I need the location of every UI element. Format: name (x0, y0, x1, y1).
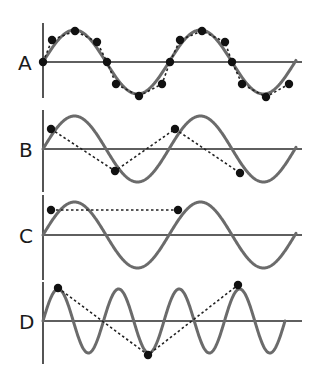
sample-point (262, 93, 270, 101)
sample-point (158, 80, 166, 88)
panel-label-b: B (19, 138, 33, 162)
sample-point (228, 58, 236, 66)
sample-point (111, 167, 119, 175)
sample-point (103, 58, 111, 66)
panel-a: A (18, 23, 302, 101)
panel-label-d: D (19, 310, 34, 334)
sample-point (221, 38, 229, 46)
sample-point (48, 36, 56, 44)
sample-point (54, 284, 62, 292)
sample-point (234, 281, 242, 289)
panel-d: D (19, 281, 302, 364)
sample-point (238, 80, 246, 88)
panel-c: C (19, 195, 302, 280)
sample-point (39, 58, 47, 66)
sample-point (176, 36, 184, 44)
reconstruction-line-b (51, 129, 240, 173)
sample-point (174, 206, 182, 214)
sample-point (144, 351, 152, 359)
sampling-diagram: A B C D (0, 0, 321, 391)
reconstruction-line-d (58, 285, 238, 355)
sample-point (285, 80, 293, 88)
sample-point (47, 206, 55, 214)
sample-point (135, 92, 143, 100)
sample-point (47, 125, 55, 133)
sample-point (166, 58, 174, 66)
panel-b: B (19, 110, 302, 192)
sample-point (171, 125, 179, 133)
sample-point (71, 27, 79, 35)
panel-label-c: C (19, 224, 33, 248)
sample-point (93, 38, 101, 46)
sample-point (198, 27, 206, 35)
sample-point (112, 80, 120, 88)
panel-label-a: A (18, 51, 32, 75)
sample-point (236, 169, 244, 177)
